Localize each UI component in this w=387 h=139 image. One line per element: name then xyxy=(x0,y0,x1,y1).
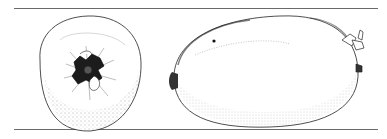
fruit-side-view xyxy=(169,16,364,127)
fruit-illustration xyxy=(0,0,387,139)
fruit-end-view xyxy=(40,16,141,131)
blossom-end xyxy=(169,72,178,90)
